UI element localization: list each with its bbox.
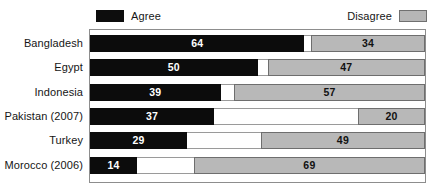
segment-neutral (137, 157, 194, 174)
row-label: Pakistan (2007) (0, 108, 83, 125)
chart-rows: Bangladesh6434Egypt5047Indonesia3957Paki… (0, 29, 441, 183)
segment-value: 47 (340, 59, 352, 76)
segment-value: 37 (146, 108, 158, 125)
segment-neutral (304, 35, 311, 52)
segment-agree: 64 (90, 35, 304, 52)
stacked-bar-chart: Agree Disagree Bangladesh6434Egypt5047In… (0, 0, 441, 194)
row-label: Bangladesh (0, 35, 83, 52)
segment-disagree: 20 (358, 108, 425, 125)
chart-row: Indonesia3957 (0, 84, 441, 101)
segment-value: 49 (337, 132, 349, 149)
legend-item-agree: Agree (96, 7, 161, 25)
segment-value: 29 (133, 132, 145, 149)
segment-disagree: 57 (234, 84, 425, 101)
chart-row: Turkey2949 (0, 132, 441, 149)
segment-neutral (258, 59, 268, 76)
row-bar: 6434 (90, 35, 425, 52)
segment-value: 50 (168, 59, 180, 76)
segment-value: 14 (107, 157, 119, 174)
segment-disagree: 34 (311, 35, 425, 52)
row-label: Egypt (0, 59, 83, 76)
segment-disagree: 47 (268, 59, 425, 76)
row-label: Indonesia (0, 84, 83, 101)
legend-swatch-agree-icon (96, 10, 124, 22)
segment-agree: 39 (90, 84, 221, 101)
segment-agree: 29 (90, 132, 187, 149)
chart-legend: Agree Disagree (0, 7, 441, 27)
segment-value: 34 (362, 35, 374, 52)
segment-disagree: 69 (194, 157, 425, 174)
row-bar: 3957 (90, 84, 425, 101)
legend-label-disagree: Disagree (347, 10, 392, 22)
row-label: Turkey (0, 132, 83, 149)
chart-row: Egypt5047 (0, 59, 441, 76)
segment-neutral (221, 84, 234, 101)
segment-agree: 37 (90, 108, 214, 125)
row-bar: 1469 (90, 157, 425, 174)
segment-value: 20 (385, 108, 397, 125)
row-label: Morocco (2006) (0, 157, 83, 174)
chart-row: Morocco (2006)1469 (0, 157, 441, 174)
segment-value: 64 (191, 35, 203, 52)
row-bar: 3720 (90, 108, 425, 125)
segment-disagree: 49 (261, 132, 425, 149)
chart-row: Pakistan (2007)3720 (0, 108, 441, 125)
segment-value: 57 (323, 84, 335, 101)
chart-row: Bangladesh6434 (0, 35, 441, 52)
segment-agree: 50 (90, 59, 258, 76)
row-bar: 2949 (90, 132, 425, 149)
segment-value: 69 (303, 157, 315, 174)
segment-agree: 14 (90, 157, 137, 174)
segment-neutral (187, 132, 261, 149)
row-bar: 5047 (90, 59, 425, 76)
segment-value: 39 (149, 84, 161, 101)
legend-label-agree: Agree (131, 10, 161, 22)
segment-neutral (214, 108, 358, 125)
legend-item-disagree: Disagree (347, 7, 427, 25)
legend-swatch-disagree-icon (399, 10, 427, 22)
